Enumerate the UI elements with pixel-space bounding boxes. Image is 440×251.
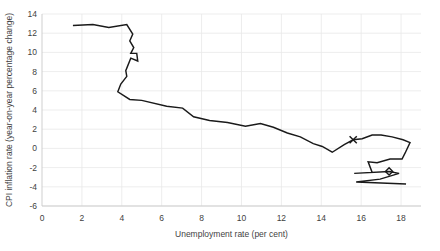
y-tick-label--4: -4	[29, 182, 37, 192]
x-tick-label-4: 4	[119, 213, 124, 223]
y-tick-label-4: 4	[32, 105, 37, 115]
y-tick-label--2: -2	[29, 163, 37, 173]
x-axis-title: Unemployment rate (per cent)	[175, 229, 288, 239]
y-tick-label-10: 10	[28, 47, 38, 57]
y-tick-label-12: 12	[28, 28, 38, 38]
y-axis-title: CPI inflation rate (year-on-year percent…	[4, 13, 14, 207]
y-tick-label-14: 14	[28, 9, 38, 19]
x-tick-label-12: 12	[277, 213, 287, 223]
x-tick-label-0: 0	[40, 213, 45, 223]
y-tick-label-8: 8	[32, 67, 37, 77]
y-tick-label--6: -6	[29, 201, 37, 211]
phillips-curve-chart: -6-4-202468101214024681012141618Unemploy…	[0, 0, 440, 251]
x-tick-label-14: 14	[317, 213, 327, 223]
y-tick-label-6: 6	[32, 86, 37, 96]
y-tick-label-2: 2	[32, 124, 37, 134]
x-tick-label-2: 2	[80, 213, 85, 223]
x-tick-label-6: 6	[159, 213, 164, 223]
x-tick-label-8: 8	[199, 213, 204, 223]
x-tick-label-10: 10	[237, 213, 247, 223]
x-tick-label-16: 16	[356, 213, 366, 223]
x-tick-label-18: 18	[396, 213, 406, 223]
chart-container: -6-4-202468101214024681012141618Unemploy…	[0, 0, 440, 251]
y-tick-label-0: 0	[32, 143, 37, 153]
